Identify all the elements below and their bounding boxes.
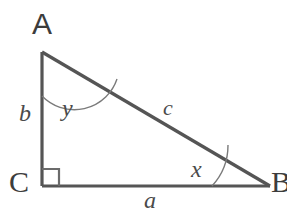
- angle-y-arc-icon: [42, 79, 117, 110]
- side-label-a: a: [144, 188, 156, 212]
- vertex-label-a: A: [32, 9, 52, 39]
- side-c-line: [42, 52, 270, 186]
- vertex-label-b: B: [271, 167, 287, 197]
- angle-label-y: y: [62, 96, 73, 120]
- right-angle-marker-icon: [42, 169, 59, 186]
- vertex-label-c: C: [9, 167, 29, 197]
- angle-label-x: x: [191, 157, 202, 181]
- diagram-canvas: A C B b a c y x: [0, 0, 287, 215]
- angle-x-arc-icon: [212, 145, 228, 186]
- side-label-b: b: [19, 101, 31, 125]
- side-label-c: c: [163, 97, 173, 119]
